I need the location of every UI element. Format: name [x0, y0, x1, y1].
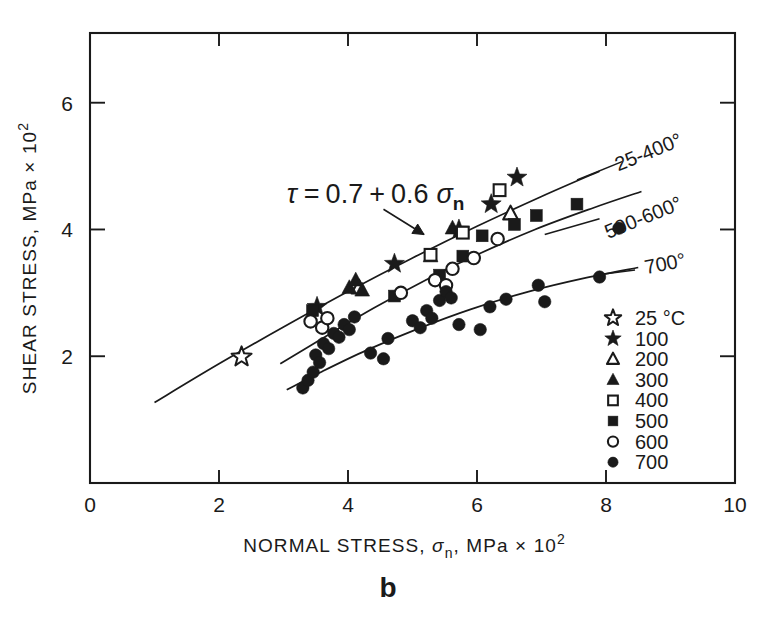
data-point-circle-filled	[414, 322, 426, 334]
x-tick-label: 10	[723, 493, 746, 516]
data-point-circle-filled	[445, 292, 457, 304]
data-point-circle-filled	[364, 347, 376, 359]
scatter-plot: 0246810 246 25-400°500-600°700° τ=0.7+0.…	[0, 0, 775, 624]
data-point-circle-filled	[474, 323, 486, 335]
data-point-circle-filled	[532, 279, 544, 291]
y-title-base: 10	[19, 131, 40, 154]
data-point-circle-open	[395, 287, 407, 299]
data-point-circle-filled	[377, 353, 389, 365]
legend-label: 200	[635, 348, 668, 370]
slope-value: 0.6	[391, 179, 429, 209]
sigma-symbol: σ	[436, 179, 454, 209]
data-point-square-open	[457, 227, 469, 239]
data-point-circle-open	[304, 315, 316, 327]
x-title-lead: NORMAL STRESS,	[243, 535, 432, 556]
legend-label: 100	[635, 328, 668, 350]
x-title-times: ×	[515, 535, 534, 556]
legend-marker-circle-open	[608, 437, 618, 447]
legend-marker-square-open	[608, 396, 618, 406]
x-tick-label: 6	[471, 493, 483, 516]
panel-label: b	[379, 572, 396, 603]
x-title-subscript: n	[445, 545, 454, 561]
data-point-square-filled	[476, 230, 488, 242]
data-point-circle-filled	[593, 271, 605, 283]
sigma-subscript: n	[453, 193, 465, 214]
y-tick-label: 2	[61, 345, 73, 368]
y-title-lead: SHEAR STRESS, MPa	[19, 173, 40, 394]
y-title-exponent: 2	[15, 122, 31, 131]
x-tick-label: 2	[213, 493, 225, 516]
data-point-circle-filled	[426, 312, 438, 324]
data-point-circle-open	[468, 252, 480, 264]
data-point-circle-open	[491, 233, 503, 245]
data-point-circle-filled	[343, 323, 355, 335]
plus-sign: +	[369, 179, 385, 209]
data-point-square-filled	[509, 219, 521, 231]
equals-sign: =	[304, 179, 320, 209]
y-tick-label: 4	[61, 218, 73, 241]
y-tick-label: 6	[61, 92, 73, 115]
data-point-circle-open	[446, 263, 458, 275]
legend-label: 700	[635, 451, 668, 473]
x-title-tail: , MPa	[454, 535, 516, 556]
data-point-circle-filled	[500, 293, 512, 305]
figure-panel: 0246810 246 25-400°500-600°700° τ=0.7+0.…	[0, 0, 775, 624]
data-point-square-filled	[571, 198, 583, 210]
data-point-circle-open	[321, 312, 333, 324]
x-tick-label: 0	[84, 493, 96, 516]
y-title-times: ×	[19, 154, 40, 173]
x-tick-label: 4	[342, 493, 354, 516]
legend-label: 500	[635, 410, 668, 432]
data-point-square-filled	[530, 210, 542, 222]
legend-label: 300	[635, 369, 668, 391]
data-point-circle-filled	[382, 332, 394, 344]
data-point-circle-filled	[333, 331, 345, 343]
legend-marker-square-filled	[608, 416, 618, 426]
panel-label-text: b	[379, 572, 396, 603]
legend-label: 25 °C	[635, 307, 685, 329]
x-tick-label: 8	[600, 493, 612, 516]
data-point-circle-filled	[348, 311, 360, 323]
data-point-circle-filled	[313, 356, 325, 368]
legend-marker-circle-filled	[608, 457, 618, 467]
y-axis-title: SHEAR STRESS, MPa × 102	[15, 122, 40, 394]
data-point-square-open	[494, 184, 506, 196]
x-title-base: 10	[534, 535, 557, 556]
intercept-value: 0.7	[326, 179, 364, 209]
data-point-circle-filled	[453, 318, 465, 330]
legend-label: 600	[635, 431, 668, 453]
legend-label: 400	[635, 389, 668, 411]
data-point-circle-filled	[484, 301, 496, 313]
data-point-circle-filled	[539, 296, 551, 308]
friction-equation: τ=0.7+0.6σn	[287, 179, 465, 214]
data-point-square-open	[425, 249, 437, 261]
data-point-circle-filled	[322, 342, 334, 354]
x-title-sigma: σ	[432, 535, 445, 556]
x-title-exponent: 2	[557, 531, 566, 547]
